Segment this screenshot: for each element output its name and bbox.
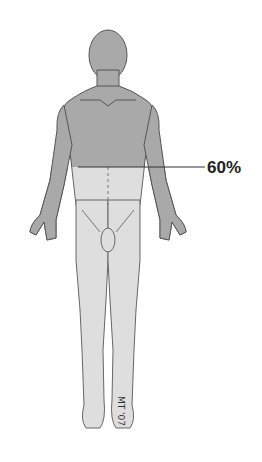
body-diagram: [0, 0, 262, 462]
artist-signature: MT '07: [116, 396, 126, 426]
percentage-label: 60%: [207, 158, 241, 178]
